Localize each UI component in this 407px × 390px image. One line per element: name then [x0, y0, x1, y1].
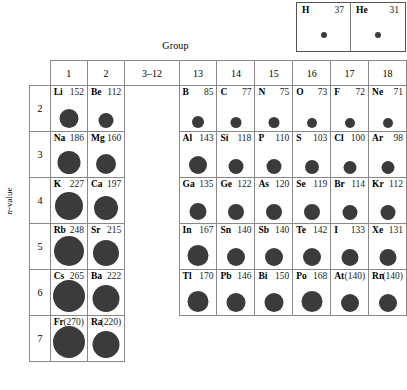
element-symbol: Kr: [372, 179, 384, 190]
element-cell-li[interactable]: Li152: [50, 86, 87, 132]
group-axis-caption: Group: [0, 40, 407, 51]
element-cell-o[interactable]: O73: [293, 86, 331, 132]
element-cell-po[interactable]: Po168: [293, 270, 331, 316]
element-cell-cs[interactable]: Cs265: [50, 270, 87, 316]
element-cell-ga[interactable]: Ga135: [179, 178, 217, 224]
element-radius-circle: [57, 151, 80, 174]
element-cell-xe[interactable]: Xe131: [369, 224, 407, 270]
element-cell-b[interactable]: B85: [179, 86, 217, 132]
element-cell-n[interactable]: N75: [255, 86, 293, 132]
element-radius-circle: [226, 293, 245, 312]
element-cell-ba[interactable]: Ba222: [87, 270, 124, 316]
element-cell-s[interactable]: S103: [293, 132, 331, 178]
element-cell-rb[interactable]: Rb248: [50, 224, 87, 270]
element-symbol: Ga: [183, 179, 195, 190]
element-symbol: P: [258, 133, 264, 144]
element-cell-f[interactable]: F72: [331, 86, 369, 132]
group-header-18: 18: [369, 61, 407, 86]
element-radius-circle: [227, 248, 245, 266]
element-radius-value: 197: [107, 179, 121, 190]
element-radius-value: 142: [313, 225, 327, 236]
element-cell-br[interactable]: Br114: [331, 178, 369, 224]
element-radius-value: 150: [275, 271, 289, 282]
element-cell-as[interactable]: As120: [255, 178, 293, 224]
element-cell-tl[interactable]: Tl170: [179, 270, 217, 316]
element-radius-circle: [53, 326, 85, 358]
grid-corner: [30, 61, 51, 86]
transition-metal-gap: [125, 224, 179, 270]
element-radius-circle: [379, 294, 397, 312]
element-symbol: Na: [54, 133, 66, 144]
nvalue-caption-italic: n: [4, 210, 14, 215]
element-radius-circle: [341, 294, 359, 312]
group-header-row: 123–12131415161718: [30, 61, 407, 86]
element-cell-bi[interactable]: Bi150: [255, 270, 293, 316]
element-radius-value: 140: [237, 225, 251, 236]
element-cell-rn[interactable]: Rn(140): [369, 270, 407, 316]
empty-cell: [331, 316, 369, 362]
element-cell-at[interactable]: At(140): [331, 270, 369, 316]
element-cell-k[interactable]: K227: [50, 178, 87, 224]
element-symbol: C: [220, 87, 227, 98]
element-cell-ne[interactable]: Ne71: [369, 86, 407, 132]
element-radius-circle: [94, 196, 118, 220]
period-number-7: 7: [30, 316, 51, 362]
element-symbol: Sn: [220, 225, 231, 236]
element-radius-circle: [304, 204, 320, 220]
element-cell-fr[interactable]: Fr(270): [50, 316, 87, 362]
element-radius-value: 215: [107, 225, 121, 236]
element-symbol: Ne: [372, 87, 383, 98]
element-radius-value: 103: [313, 133, 327, 144]
element-cell-al[interactable]: Al143: [179, 132, 217, 178]
element-symbol: Br: [334, 179, 345, 190]
element-radius-circle: [375, 32, 381, 38]
group-header-3-12: 3–12: [125, 61, 179, 86]
element-cell-ra[interactable]: Ra(220): [87, 316, 124, 362]
element-radius-circle: [228, 159, 243, 174]
element-cell-i[interactable]: I133: [331, 224, 369, 270]
element-cell-in[interactable]: In167: [179, 224, 217, 270]
element-cell-kr[interactable]: Kr112: [369, 178, 407, 224]
element-cell-cl[interactable]: Cl100: [331, 132, 369, 178]
element-radius-circle: [228, 204, 244, 220]
element-radius-circle: [266, 159, 281, 174]
element-radius-value: 112: [107, 87, 121, 98]
element-radius-circle: [380, 205, 395, 220]
element-cell-pb[interactable]: Pb146: [217, 270, 255, 316]
group-header-15: 15: [255, 61, 293, 86]
element-radius-value: 135: [199, 179, 213, 190]
element-cell-ar[interactable]: Ar98: [369, 132, 407, 178]
element-cell-te[interactable]: Te142: [293, 224, 331, 270]
element-symbol: In: [183, 225, 192, 236]
element-cell-mg[interactable]: Mg160: [87, 132, 124, 178]
element-radius-value: 170: [199, 271, 213, 282]
element-cell-na[interactable]: Na186: [50, 132, 87, 178]
element-symbol: Li: [54, 87, 63, 98]
element-cell-ge[interactable]: Ge122: [217, 178, 255, 224]
element-cell-sn[interactable]: Sn140: [217, 224, 255, 270]
element-symbol: Te: [296, 225, 306, 236]
element-cell-ca[interactable]: Ca197: [87, 178, 124, 224]
element-cell-be[interactable]: Be112: [87, 86, 124, 132]
element-symbol: F: [334, 87, 340, 98]
element-radius-value: 119: [313, 179, 327, 190]
element-symbol: B: [183, 87, 189, 98]
element-cell-p[interactable]: P110: [255, 132, 293, 178]
element-cell-sb[interactable]: Sb140: [255, 224, 293, 270]
element-symbol: Xe: [372, 225, 383, 236]
element-cell-sr[interactable]: Sr215: [87, 224, 124, 270]
element-cell-se[interactable]: Se119: [293, 178, 331, 224]
empty-cell: [125, 316, 179, 362]
element-radius-value: 73: [318, 87, 328, 98]
element-radius-value: (220): [101, 317, 122, 328]
element-symbol: Be: [91, 87, 102, 98]
element-radius-circle: [268, 117, 279, 128]
element-cell-c[interactable]: C77: [217, 86, 255, 132]
element-radius-circle: [188, 245, 209, 266]
element-radius-circle: [303, 248, 321, 266]
nvalue-caption-suffix: -value: [4, 188, 14, 211]
element-symbol: Sb: [258, 225, 269, 236]
element-symbol: Tl: [183, 271, 192, 282]
element-radius-value: 100: [351, 133, 365, 144]
element-cell-si[interactable]: Si118: [217, 132, 255, 178]
